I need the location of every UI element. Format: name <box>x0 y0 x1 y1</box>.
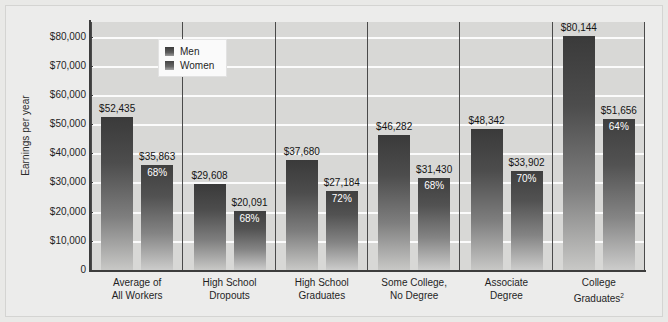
bar-value-label: $31,430 <box>407 164 461 175</box>
bar-value-label: $48,342 <box>460 115 514 126</box>
group-separator <box>367 22 368 270</box>
group-separator <box>552 22 553 270</box>
y-axis-title: Earnings per year <box>20 46 31 226</box>
category-label-line: High School <box>276 277 368 290</box>
legend-label-men: Men <box>180 46 199 57</box>
y-tick-label: $60,000 <box>28 89 86 100</box>
bar-men <box>101 117 133 270</box>
category-label: AssociateDegree <box>460 277 552 302</box>
category-label-line: College <box>553 277 645 290</box>
legend-item-women: Women <box>165 58 214 72</box>
legend-swatch-women-icon <box>165 61 174 70</box>
category-label: High SchoolDropouts <box>183 277 275 302</box>
bar-value-label: $27,184 <box>315 177 369 188</box>
y-tick-label: $70,000 <box>28 60 86 71</box>
category-label-line: Average of <box>91 277 183 290</box>
y-tick-mark <box>89 212 93 213</box>
group-separator <box>459 22 460 270</box>
y-tick-mark <box>89 66 93 67</box>
y-axis-line <box>89 20 91 272</box>
bar-value-label: $46,282 <box>367 121 421 132</box>
earnings-by-education-bar-chart: Earnings per year $52,435$35,86368%$29,6… <box>0 0 668 322</box>
category-label-line: No Degree <box>368 290 460 303</box>
y-tick-mark <box>89 124 93 125</box>
category-label-line: All Workers <box>91 290 183 303</box>
category-label-line: Some College, <box>368 277 460 290</box>
group-separator <box>644 22 645 270</box>
category-label-line: Degree <box>460 290 552 303</box>
group-separator <box>91 22 92 270</box>
bar-men <box>194 184 226 270</box>
category-label-line: Graduates2 <box>553 290 645 306</box>
bar-value-label: $51,656 <box>592 105 646 116</box>
y-tick-mark <box>89 241 93 242</box>
category-label: Some College,No Degree <box>368 277 460 302</box>
legend-label-women: Women <box>180 60 214 71</box>
bar-men <box>378 135 410 270</box>
bar-value-label: $37,680 <box>275 146 329 157</box>
bar-women <box>418 178 450 270</box>
y-tick-mark <box>89 153 93 154</box>
y-tick-label: $10,000 <box>28 235 86 246</box>
bar-percent-label: 68% <box>418 180 450 191</box>
x-axis-line <box>89 270 646 272</box>
y-tick-mark <box>89 182 93 183</box>
bar-women <box>511 171 543 270</box>
category-label: High SchoolGraduates <box>276 277 368 302</box>
category-label-line: High School <box>183 277 275 290</box>
bar-value-label: $52,435 <box>90 103 144 114</box>
bar-men <box>286 160 318 270</box>
legend: Men Women <box>158 39 227 77</box>
y-tick-mark <box>89 95 93 96</box>
legend-swatch-men-icon <box>165 47 174 56</box>
bar-value-label: $33,902 <box>500 157 554 168</box>
bar-percent-label: 72% <box>326 193 358 204</box>
bar-value-label: $20,091 <box>223 197 277 208</box>
legend-item-men: Men <box>165 44 214 58</box>
bar-percent-label: 68% <box>141 167 173 178</box>
bar-percent-label: 68% <box>234 213 266 224</box>
category-footnote-marker: 2 <box>620 292 624 299</box>
y-tick-label: $30,000 <box>28 176 86 187</box>
bar-men <box>563 36 595 270</box>
category-label: Average ofAll Workers <box>91 277 183 302</box>
bar-percent-label: 64% <box>603 121 635 132</box>
y-tick-label: $40,000 <box>28 147 86 158</box>
y-tick-mark <box>89 270 93 271</box>
bar-women <box>603 119 635 270</box>
bar-women <box>141 165 173 270</box>
category-label-line: Dropouts <box>183 290 275 303</box>
category-label-line: Associate <box>460 277 552 290</box>
bar-value-label: $29,608 <box>183 170 237 181</box>
y-tick-mark <box>89 37 93 38</box>
y-tick-label: $50,000 <box>28 118 86 129</box>
y-tick-label: 0 <box>28 264 86 275</box>
bar-value-label: $35,863 <box>130 151 184 162</box>
category-label: CollegeGraduates2 <box>553 277 645 305</box>
bar-value-label: $80,144 <box>552 22 606 33</box>
y-tick-label: $20,000 <box>28 206 86 217</box>
bar-men <box>471 129 503 270</box>
category-label-line: Graduates <box>276 290 368 303</box>
bar-percent-label: 70% <box>511 173 543 184</box>
y-tick-label: $80,000 <box>28 31 86 42</box>
